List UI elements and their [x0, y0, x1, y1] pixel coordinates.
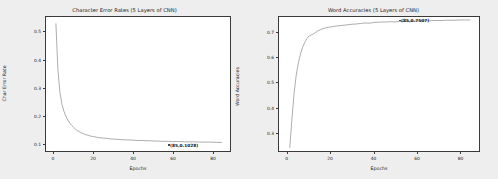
y-axis-tick	[276, 108, 278, 109]
y-axis-tick-label: 0.3	[27, 85, 41, 90]
y-axis-tick-label: 0.5	[260, 80, 274, 85]
x-axis-tick-label: 60	[414, 156, 420, 161]
plot-area	[45, 16, 231, 152]
y-axis-tick	[276, 133, 278, 134]
x-axis-tick-label: 0	[52, 156, 55, 161]
y-axis-tick-label: 0.6	[260, 55, 274, 60]
y-axis-tick	[43, 31, 45, 32]
x-axis-tick-label: 80	[210, 156, 216, 161]
x-axis-label: Epochs	[130, 166, 147, 171]
y-axis-tick	[276, 57, 278, 58]
y-axis-label: Word Accuracies	[235, 52, 240, 122]
y-axis-tick-label: 0.4	[260, 105, 274, 110]
x-axis-tick-label: 40	[371, 156, 377, 161]
x-axis-tick-label: 20	[90, 156, 96, 161]
y-axis-tick	[43, 116, 45, 117]
x-axis-tick	[460, 152, 461, 154]
chart-title: Word Accuracies (5 Layers of CNN)	[249, 7, 498, 13]
chart-word-accuracies: Word Accuracies (5 Layers of CNN) Epochs…	[249, 0, 498, 179]
line-series-char-error-rate	[46, 17, 230, 151]
y-axis-tick-label: 0.2	[27, 113, 41, 118]
figure-canvas: Character Error Rates (5 Layers of CNN) …	[0, 0, 498, 179]
y-axis-tick	[276, 32, 278, 33]
x-axis-tick-label: 80	[458, 156, 464, 161]
y-axis-tick-label: 0.3	[260, 131, 274, 136]
x-axis-tick	[374, 152, 375, 154]
x-axis-tick	[173, 152, 174, 154]
y-axis-tick	[276, 82, 278, 83]
x-axis-tick	[53, 152, 54, 154]
y-axis-label: Char Error Rate	[2, 54, 7, 114]
chart-character-error-rates: Character Error Rates (5 Layers of CNN) …	[0, 0, 249, 179]
y-axis-tick-label: 0.7	[260, 29, 274, 34]
x-axis-tick-label: 20	[327, 156, 333, 161]
y-axis-tick	[43, 144, 45, 145]
x-axis-label: Epochs	[371, 166, 388, 171]
x-axis-tick	[133, 152, 134, 154]
x-axis-tick-label: 40	[130, 156, 136, 161]
chart-title: Character Error Rates (5 Layers of CNN)	[0, 7, 249, 13]
x-axis-tick	[287, 152, 288, 154]
x-axis-tick	[417, 152, 418, 154]
x-axis-tick	[213, 152, 214, 154]
x-axis-tick	[93, 152, 94, 154]
y-axis-tick	[43, 60, 45, 61]
annotation-marker	[168, 144, 170, 146]
x-axis-tick-label: 60	[170, 156, 176, 161]
y-axis-tick	[43, 88, 45, 89]
y-axis-tick-label: 0.4	[27, 57, 41, 62]
line-series-word-accuracies	[279, 17, 479, 151]
x-axis-tick-label: 0	[285, 156, 288, 161]
plot-area	[278, 16, 480, 152]
annotation-marker	[399, 20, 401, 22]
y-axis-tick-label: 0.1	[27, 142, 41, 147]
point-annotation: (85,0.7507)	[401, 18, 429, 23]
x-axis-tick	[330, 152, 331, 154]
y-axis-tick-label: 0.5	[27, 29, 41, 34]
point-annotation: (85,0.1028)	[170, 143, 198, 148]
